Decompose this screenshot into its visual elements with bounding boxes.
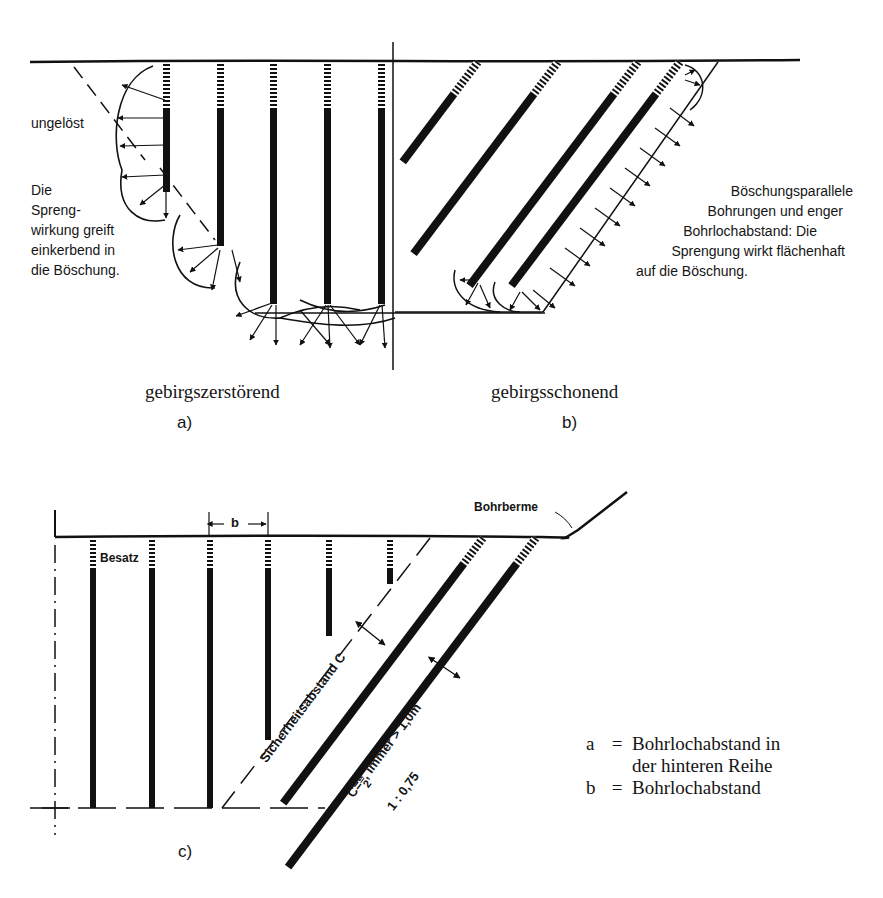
spacing-b-label: b <box>231 513 239 533</box>
panel-a-blast-arcs <box>116 66 395 325</box>
legend-text: der hinteren Reihe <box>632 755 772 776</box>
legend-key: b <box>586 777 602 799</box>
berm-surface-line <box>55 492 627 538</box>
panel-b-description: Böschungsparallele Bohrungen und enger B… <box>636 181 853 281</box>
panel-b-desc-line: auf die Böschung. <box>636 261 748 281</box>
legend-text: Bohrlochabstand in <box>632 733 780 754</box>
ground-surface-line <box>30 60 800 62</box>
legend-equals: = <box>602 777 632 799</box>
panel-a-desc-line: wirkung greift <box>31 220 120 240</box>
legend-item-a: a=Bohrlochabstand in <box>586 733 780 755</box>
stemming-label: Besatz <box>100 548 139 568</box>
panel-a-desc-line: einkerbend in <box>31 240 120 260</box>
unloosened-label: ungelöst <box>31 113 84 133</box>
panel-c-caption: c) <box>178 842 192 862</box>
panel-a-description: Die Spreng- wirkung greift einkerbend in… <box>31 180 120 280</box>
panel-b-title: gebirgsschonend <box>491 381 618 403</box>
panel-a-title: gebirgszerstörend <box>145 381 280 403</box>
legend-text: Bohrlochabstand <box>632 777 761 798</box>
panel-b-caption: b) <box>562 413 577 433</box>
panel-b-desc-line: Bohrungen und enger <box>636 201 843 221</box>
panel-b-desc-line: Böschungsparallele <box>636 181 853 201</box>
panel-a-caption: a) <box>177 413 192 433</box>
panel-a-desc-line: Die <box>31 180 120 200</box>
panel-b-desc-line: Bohrlochabstand: Die <box>636 221 817 241</box>
panel-a-boreholes <box>163 63 385 304</box>
panel-a-blast-arrows <box>118 85 385 348</box>
legend-equals: = <box>602 733 632 755</box>
legend-item-b: b=Bohrlochabstand <box>586 777 780 799</box>
panel-a-desc-line: Spreng- <box>31 200 120 220</box>
legend-key: a <box>586 733 602 755</box>
panel-b-desc-line: Sprengung wirkt flächenhaft <box>636 241 845 261</box>
legend-item-a-continued: der hinteren Reihe <box>586 755 780 777</box>
panel-c-vertical-boreholes <box>90 538 393 808</box>
legend: a=Bohrlochabstand in der hinteren Reihe … <box>586 733 780 799</box>
panel-a-desc-line: die Böschung. <box>31 260 120 280</box>
berm-label: Bohrberme <box>474 497 538 517</box>
